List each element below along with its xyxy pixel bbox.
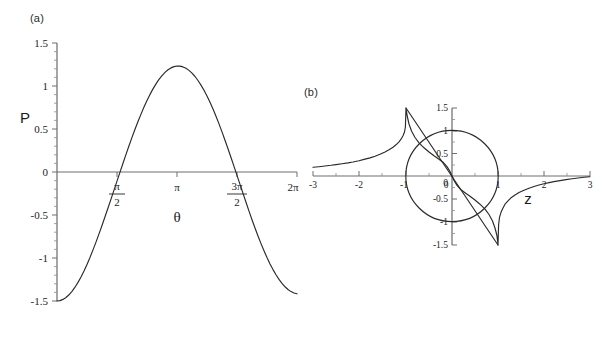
panel-b-ytick-6: -1 bbox=[440, 217, 448, 227]
panel-b-label: (b) bbox=[304, 86, 318, 98]
panel-b-ytick-5: -0.5 bbox=[433, 194, 448, 204]
panel-a-xtick-3-denominator: 2 bbox=[234, 196, 240, 208]
panel-a-xtick-1-denominator: 2 bbox=[114, 196, 120, 208]
panel-b-xtick-1: -3 bbox=[309, 180, 317, 190]
panel-b-plot: -3 -2 -1 0 1 2 3 bbox=[290, 78, 607, 278]
panel-b-ytick-3: 0.5 bbox=[436, 149, 448, 159]
panel-a-x-ticks bbox=[117, 172, 297, 177]
panel-a-ytick-3: 0.5 bbox=[34, 123, 48, 135]
panel-a-xtick-3pi-over-2: 3π 2 bbox=[227, 180, 247, 208]
panel-b-x-axis-label: z bbox=[524, 190, 532, 207]
panel-b-ytick-7: -1.5 bbox=[433, 240, 448, 250]
panel-a-ytick-1: 1.5 bbox=[34, 37, 48, 49]
panel-a-ytick-4: 0 bbox=[43, 166, 49, 178]
panel-a-x-axis-label: θ bbox=[173, 209, 180, 225]
figure-container: (a) bbox=[0, 0, 607, 339]
panel-a-y-axis-label: P bbox=[20, 109, 30, 126]
panel-a-label: (a) bbox=[30, 12, 44, 24]
panel-a-xtick-3-numerator: 3π bbox=[231, 180, 243, 192]
panel-b-ytick-4: 0 bbox=[443, 178, 448, 188]
panel-a-ytick-7: -1.5 bbox=[31, 295, 49, 307]
panel-b-xtick-7: 3 bbox=[588, 180, 593, 190]
panel-a: (a) bbox=[0, 0, 310, 339]
panel-b-xtick-6: 2 bbox=[542, 180, 547, 190]
panel-a-xtick-2: π bbox=[174, 181, 180, 193]
panel-b-xtick-2: -2 bbox=[355, 180, 363, 190]
panel-b-ytick-1: 1.5 bbox=[436, 103, 448, 113]
panel-a-y-ticks bbox=[52, 43, 57, 301]
panel-a-plot: 1.5 1 0.5 0 -0.5 -1 -1.5 π 2 π bbox=[0, 0, 310, 339]
panel-a-ytick-6: -1 bbox=[39, 252, 48, 264]
panel-a-ytick-2: 1 bbox=[43, 80, 49, 92]
panel-a-xtick-pi-over-2: π 2 bbox=[109, 180, 125, 208]
panel-b: (b) bbox=[290, 78, 607, 278]
panel-a-ytick-5: -0.5 bbox=[31, 209, 49, 221]
